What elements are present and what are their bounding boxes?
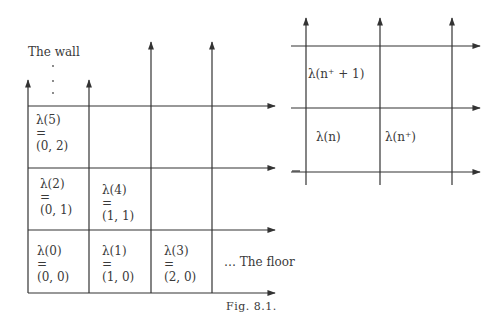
figure-caption: Fig. 8.1. — [226, 300, 277, 313]
cell-lambda-3: λ(3) = (2, 0) — [164, 245, 196, 284]
cell-coord: (0, 2) — [36, 140, 68, 153]
cell-coord: (1, 0) — [102, 271, 134, 284]
cell-lambda-2: λ(2) = (0, 1) — [40, 178, 72, 217]
cell-coord: (1, 1) — [102, 210, 134, 223]
cell-lambda-1: λ(1) = (1, 0) — [102, 245, 134, 284]
cell-lambda-4: λ(4) = (1, 1) — [102, 184, 134, 223]
cell-coord: (0, 1) — [40, 204, 72, 217]
cell-lambda-5: λ(5) = (0, 2) — [36, 114, 68, 153]
cell-lambda-n: λ(n) — [316, 130, 341, 144]
cell-lambda-n-plus-1: λ(n⁺ + 1) — [308, 67, 364, 81]
floor-label: … The floor — [224, 255, 295, 269]
cell-lambda-n-plus: λ(n⁺) — [385, 130, 416, 144]
vertical-ellipsis-icon — [52, 65, 54, 94]
cell-coord: (2, 0) — [164, 271, 196, 284]
wall-label: The wall — [28, 45, 80, 59]
cell-lambda-0: λ(0) = (0, 0) — [37, 245, 69, 284]
cell-coord: (0, 0) — [37, 271, 69, 284]
